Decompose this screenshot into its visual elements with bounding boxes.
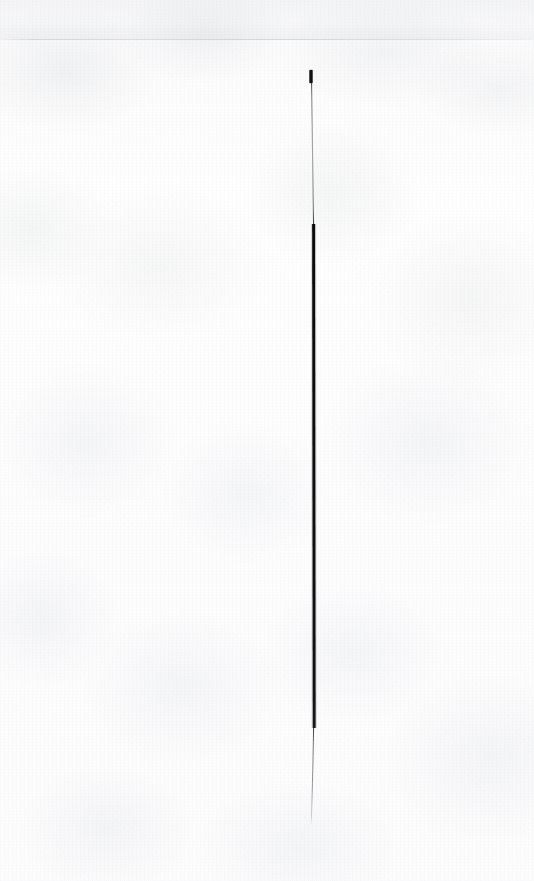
stroke-top-cap-halo bbox=[309, 69, 313, 83]
stroke-top-cap bbox=[309, 70, 312, 83]
ink-stroke-layer bbox=[0, 0, 534, 881]
faint-horizontal-scan-line bbox=[0, 39, 534, 40]
scanned-page bbox=[0, 0, 534, 881]
stroke-body-halo bbox=[314, 224, 315, 728]
stroke-body bbox=[314, 224, 315, 728]
vertical-ink-stroke bbox=[0, 0, 534, 881]
paper-fibre-grain bbox=[0, 0, 534, 881]
top-edge-tonal-band bbox=[0, 0, 534, 40]
stroke-upper-shaft bbox=[312, 80, 314, 226]
vertical-ink-stroke-region bbox=[300, 64, 328, 832]
stroke-lower-tail bbox=[311, 728, 313, 826]
